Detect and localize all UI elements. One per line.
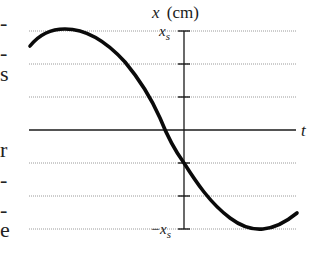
shm-position-graph: x (cm) xs −xs t — [0, 0, 315, 268]
y-axis-title: x (cm) — [151, 3, 199, 22]
position-curve — [30, 29, 297, 229]
t-axis-label: t — [301, 121, 307, 140]
y-min-label: −xs — [150, 221, 171, 240]
y-max-label: xs — [158, 23, 170, 42]
